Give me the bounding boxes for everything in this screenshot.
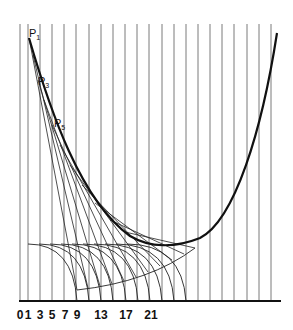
- tick-label: 0: [17, 308, 24, 322]
- tick-label: 3: [37, 308, 44, 322]
- tick-label: 17: [119, 308, 133, 322]
- point-label: P1: [29, 27, 40, 41]
- tick-label: 21: [144, 308, 158, 322]
- vertical-grid-lines: [20, 24, 271, 301]
- tick-labels: 013579131721: [17, 308, 158, 322]
- tick-label: 1: [25, 308, 32, 322]
- tangent-line: [38, 80, 100, 286]
- tick-label: 9: [74, 308, 81, 322]
- tick-label: 7: [62, 308, 69, 322]
- tangent-lines: [29, 38, 195, 290]
- envelope-curve: [29, 33, 277, 245]
- tick-label: 13: [94, 308, 108, 322]
- point-label: P3: [38, 75, 49, 89]
- tick-label: 5: [49, 308, 56, 322]
- involute-diagram: 013579131721 P1P3P5: [0, 0, 293, 330]
- tangent-line: [70, 165, 148, 272]
- arc: [127, 244, 186, 301]
